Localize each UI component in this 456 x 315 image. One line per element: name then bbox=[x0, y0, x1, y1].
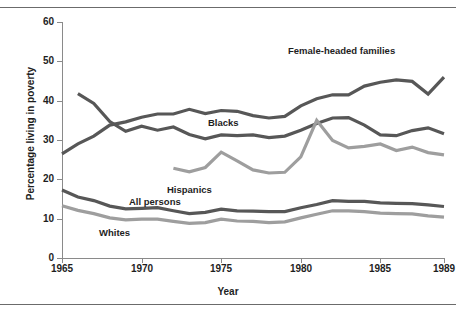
series-label-female-headed-families: Female-headed families bbox=[288, 46, 395, 56]
series-label-blacks: Blacks bbox=[208, 118, 239, 128]
series-label-whites: Whites bbox=[99, 228, 130, 238]
series-line-all-persons bbox=[62, 190, 444, 214]
series-label-hispanics: Hispanics bbox=[167, 185, 212, 195]
poverty-line-chart-figure: 6050403020100 196519701975198019851989 P… bbox=[0, 0, 456, 315]
series-label-all-persons: All persons bbox=[129, 197, 181, 207]
series-line-female-headed-families bbox=[62, 77, 444, 154]
